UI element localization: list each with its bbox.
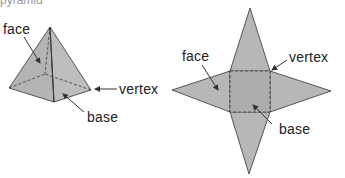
net-base-label: base xyxy=(279,122,310,136)
net-vertex-label: vertex xyxy=(289,50,328,64)
net-right-face xyxy=(270,71,331,112)
pyramid-vertex-label: vertex xyxy=(119,82,158,96)
net-top-face xyxy=(230,8,270,71)
net-base-square xyxy=(230,71,270,112)
pyramid-left-face xyxy=(9,27,54,102)
pyramid-3d xyxy=(9,27,117,112)
net-left-face xyxy=(172,71,230,112)
net-vertex-arrow xyxy=(272,60,287,70)
net-bottom-face xyxy=(230,112,270,174)
pyramid-face-label: face xyxy=(3,22,30,36)
base-arrow xyxy=(63,94,84,112)
pyramid-base-label: base xyxy=(87,110,118,124)
pyramid-diagram: pyramid xyxy=(0,0,345,178)
net-face-label: face xyxy=(182,49,209,63)
pyramid-right-face xyxy=(50,27,91,102)
pyramid-net xyxy=(172,8,331,174)
